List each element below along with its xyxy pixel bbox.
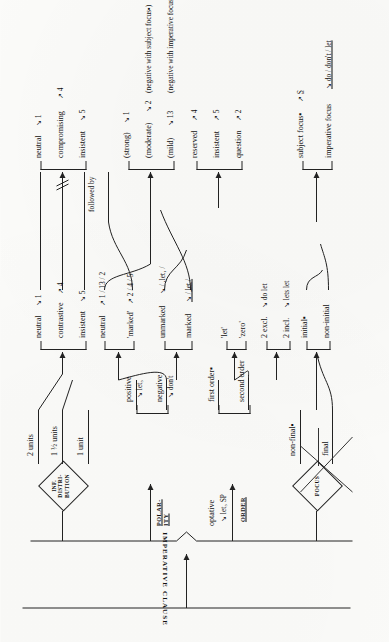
order-brace bbox=[218, 405, 250, 414]
term-out3-question-realization: ↗ 2 bbox=[233, 109, 242, 121]
term-first-order: first order▪ bbox=[206, 367, 215, 402]
term-out4-subject-focus: subject focus▪ bbox=[295, 113, 304, 158]
note-out2-mild: (negative with imperative focus▪) bbox=[165, 0, 174, 93]
term-negative-realization: ↘ don't bbox=[165, 376, 174, 398]
order-system-label: ORDER bbox=[238, 497, 245, 522]
term-1-unit: 1 unit bbox=[75, 437, 84, 456]
inf-distribution-label: INF.DISTRI-BUTION bbox=[50, 466, 69, 506]
term-out3-question: question bbox=[233, 131, 242, 158]
term-unmarked: unmarked bbox=[157, 306, 166, 338]
term-out2-mild-realization: ↘ 13 bbox=[165, 111, 174, 126]
term-optative: optative bbox=[206, 500, 215, 526]
term-positive: positive bbox=[123, 376, 132, 402]
tone-group-3-brace bbox=[164, 341, 192, 350]
polarity-brace bbox=[136, 405, 168, 414]
term-marked-realization: ↘ / ̲l̲e̲t̲ / bbox=[183, 279, 192, 302]
term-out2-moderate: (moderate) bbox=[143, 122, 152, 158]
term-out4-subject-focus-realization: ↗ S̲ bbox=[295, 90, 304, 102]
term-tone2-marked-realization: ↗ 2 / 4 / 5 bbox=[125, 274, 134, 304]
simultaneity-brace bbox=[30, 532, 352, 541]
tone-group-2-brace bbox=[104, 341, 134, 350]
term-out1-neutral: neutral bbox=[33, 136, 42, 158]
term-zero: 'zero' bbox=[237, 321, 246, 338]
outcome-group-2-brace bbox=[128, 161, 174, 170]
tone-group-6-brace bbox=[306, 341, 330, 350]
g6-out-initial bbox=[306, 270, 322, 290]
term-tone1-neutral-realization: ↘ 1 bbox=[33, 294, 42, 306]
term-tone1-contrastive: contrastive bbox=[55, 302, 64, 338]
term-final: final bbox=[320, 441, 329, 456]
term-2-units: 2 units bbox=[25, 434, 34, 456]
tone-group-4-brace bbox=[226, 341, 246, 350]
g6-out-noninitial bbox=[320, 244, 328, 290]
term-out3-insistent: insistent bbox=[211, 131, 220, 158]
tone-group-1-brace bbox=[40, 341, 86, 350]
term-out2-strong-realization: ↘ 1 bbox=[121, 111, 130, 123]
polarity-system-label: POLAR-ITY bbox=[154, 499, 168, 526]
term-out4-imperative-focus-realization: ↘ do / don't / let bbox=[323, 40, 332, 89]
term-let: 'let' bbox=[219, 327, 228, 338]
term-optative-realization: ↘ let₃ SP bbox=[218, 494, 227, 522]
term-out3-reserved: reserved bbox=[189, 131, 198, 158]
term-2-incl: 2 incl. bbox=[281, 318, 290, 338]
kink-focus-to-tone6 bbox=[316, 352, 332, 410]
term-out1-insistent-realization: ↘ 5 bbox=[77, 109, 86, 121]
term-unmarked-realization: ↘ / ,let₁ / bbox=[157, 267, 166, 294]
term-negative: negative bbox=[154, 375, 163, 402]
note-out2-moderate: (negative with subject focus▪) bbox=[143, 5, 152, 93]
term-out2-strong: (strong) bbox=[121, 132, 130, 158]
term-second-order: second order bbox=[236, 360, 245, 402]
leader-2units bbox=[38, 374, 62, 410]
term-marked: marked bbox=[183, 314, 192, 338]
outcome-group-4-brace bbox=[302, 161, 332, 170]
term-out1-neutral-realization: ↘ 1 bbox=[33, 114, 42, 126]
outcome-group-3-brace bbox=[196, 161, 242, 170]
term-non-final: non-final▪ bbox=[287, 423, 296, 456]
term-tone2-neutral: neutral bbox=[97, 316, 106, 338]
term-out1-insistent: insistent bbox=[77, 131, 86, 158]
term-out3-reserved-realization: ↗ 4 bbox=[189, 109, 198, 121]
term-initial: initial▪ bbox=[299, 316, 308, 338]
focus-label: FOCUS bbox=[313, 469, 319, 503]
term-tone2-marked: 'marked' bbox=[125, 311, 134, 338]
term-tone1-contrastive-realization: ↗ 4 bbox=[55, 282, 64, 294]
term-2-incl-realization: ↘ lets let bbox=[281, 281, 290, 308]
term-tone1-neutral: neutral bbox=[33, 316, 42, 338]
term-tone1-insistent-realization: ↘ 5 bbox=[77, 290, 86, 302]
term-tone2-neutral-realization: ↗ 1 / 13 / 2 bbox=[97, 272, 106, 306]
term-positive-realization: ↘ let₃ bbox=[134, 380, 143, 398]
followed-by-caption: followed by bbox=[86, 176, 95, 212]
term-out1-compromising: compromising bbox=[55, 111, 64, 158]
page-title: IMPERATIVE CLAUSE bbox=[160, 532, 168, 626]
term-out1-compromising-realization: ↗ 4 bbox=[55, 87, 64, 99]
term-out2-mild: (mild) bbox=[165, 138, 174, 158]
term-out4-imperative-focus: imperative focus bbox=[323, 104, 332, 158]
term-out3-insistent-realization: ↗ 5 bbox=[211, 109, 220, 121]
term-out2-moderate-realization: ↘ 2 bbox=[143, 100, 152, 112]
outcome-group-1-brace bbox=[40, 161, 86, 170]
leader-1half bbox=[62, 380, 72, 410]
term-2-excl: 2 excl. bbox=[259, 316, 268, 338]
term-2-excl-realization: ↘ do let bbox=[259, 284, 268, 308]
term-1half-units: 1 ½ units bbox=[49, 426, 58, 456]
term-non-initial: non-initial bbox=[321, 304, 330, 338]
g2-out-marked bbox=[108, 172, 132, 290]
term-tone1-insistent: insistent bbox=[77, 311, 86, 338]
tone-group-5-brace bbox=[266, 341, 290, 350]
system-network-diagram: IMPERATIVE CLAUSE optative ↘ let₃ SP INF… bbox=[0, 0, 389, 642]
